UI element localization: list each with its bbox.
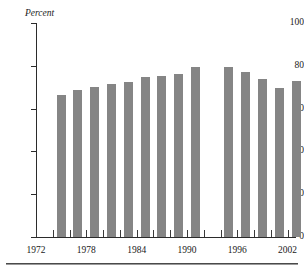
bar xyxy=(124,82,133,237)
x-tick xyxy=(53,230,54,237)
bar xyxy=(107,84,116,237)
x-tick xyxy=(288,230,289,237)
bar xyxy=(174,74,183,237)
bar xyxy=(224,67,233,237)
bar xyxy=(57,95,66,237)
x-tick xyxy=(86,230,87,237)
x-tick xyxy=(153,230,154,237)
y-tick-label: 100 xyxy=(276,18,304,27)
x-tick xyxy=(204,230,205,237)
bar xyxy=(292,81,301,237)
plot-area: 020406080100 197219781984199019962002 xyxy=(0,0,304,268)
x-tick xyxy=(170,230,171,237)
x-tick-label: 1972 xyxy=(27,245,46,255)
bar xyxy=(157,76,166,237)
x-tick-label: 1984 xyxy=(127,245,146,255)
y-tick-label: 80 xyxy=(276,61,304,70)
footer-rule-shadow xyxy=(6,264,298,265)
x-tick xyxy=(36,230,37,237)
x-tick xyxy=(271,230,272,237)
x-tick xyxy=(254,230,255,237)
bar xyxy=(275,88,284,237)
x-tick xyxy=(103,230,104,237)
bar xyxy=(191,67,200,237)
bar xyxy=(73,90,82,237)
x-tick-label: 1996 xyxy=(228,245,247,255)
x-tick xyxy=(221,230,222,237)
bar xyxy=(258,79,267,237)
x-axis-line xyxy=(36,237,296,238)
y-tick xyxy=(31,237,36,238)
x-tick xyxy=(70,230,71,237)
y-tick xyxy=(31,194,36,195)
x-tick-label: 1978 xyxy=(77,245,96,255)
x-tick-label: 1990 xyxy=(177,245,196,255)
y-tick xyxy=(31,151,36,152)
y-tick xyxy=(31,109,36,110)
bar xyxy=(90,87,99,237)
y-axis-line xyxy=(36,23,37,238)
bar xyxy=(141,77,150,237)
x-tick xyxy=(137,230,138,237)
y-tick xyxy=(31,66,36,67)
bar xyxy=(241,72,250,237)
x-tick-label: 2002 xyxy=(278,245,297,255)
x-tick xyxy=(237,230,238,237)
x-tick xyxy=(120,230,121,237)
chart-figure: Percent 020406080100 1972197819841990199… xyxy=(0,0,304,268)
y-tick xyxy=(31,23,36,24)
x-tick xyxy=(187,230,188,237)
